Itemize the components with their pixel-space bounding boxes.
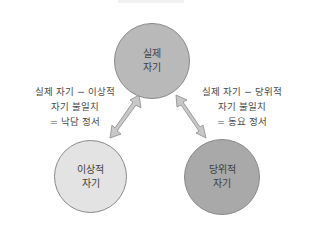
node-ideal-line2: 자기 — [82, 177, 100, 191]
edge-label-actual-ought-line1: 실제 자기 − 당위적 — [196, 84, 288, 99]
node-actual-self: 실제 자기 — [114, 23, 190, 99]
edge-label-actual-ideal-line3: = 낙담 정서 — [30, 114, 120, 129]
edge-label-actual-ought-line2: 자기 불일치 — [196, 99, 288, 114]
node-ideal-self: 이상적 자기 — [54, 140, 127, 213]
edge-label-actual-ideal: 실제 자기 − 이상적 자기 불일치 = 낙담 정서 — [30, 84, 120, 129]
node-actual-line2: 자기 — [143, 61, 161, 75]
node-ought-line2: 자기 — [213, 177, 231, 191]
node-actual-line1: 실제 — [143, 47, 161, 61]
edge-label-actual-ought: 실제 자기 − 당위적 자기 불일치 = 동요 정서 — [196, 84, 288, 129]
node-ought-line1: 당위적 — [209, 163, 236, 177]
node-ought-self: 당위적 자기 — [184, 139, 260, 215]
edge-label-actual-ideal-line2: 자기 불일치 — [30, 99, 120, 114]
node-ideal-line1: 이상적 — [77, 163, 104, 177]
edge-label-actual-ought-line3: = 동요 정서 — [196, 114, 288, 129]
edge-label-actual-ideal-line1: 실제 자기 − 이상적 — [30, 84, 120, 99]
